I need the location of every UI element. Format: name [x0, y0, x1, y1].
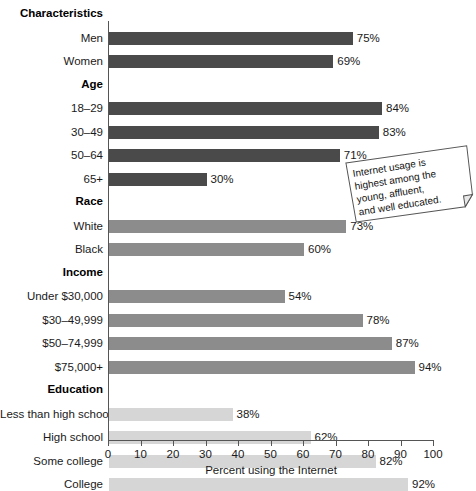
- x-axis-tick: [238, 441, 239, 446]
- bar-value-label: 38%: [237, 408, 260, 421]
- category-label: $50–74,999: [0, 336, 103, 350]
- category-label: 30–49: [0, 125, 103, 139]
- bar-value-label: 30%: [211, 173, 234, 186]
- bar: [109, 337, 392, 350]
- bar-value-label: 54%: [289, 290, 312, 303]
- bar-value-label: 78%: [367, 314, 390, 327]
- category-label: Women: [0, 54, 103, 68]
- category-label: College: [0, 477, 103, 491]
- category-label: Under $30,000: [0, 289, 103, 303]
- category-label: $75,000+: [0, 360, 103, 374]
- bar-value-label: 60%: [308, 243, 331, 256]
- bar-value-label: 83%: [383, 126, 406, 139]
- category-label: $30–49,999: [0, 313, 103, 327]
- bar: [109, 173, 207, 186]
- bar-value-label: 94%: [419, 361, 442, 374]
- category-label: High school: [0, 430, 103, 444]
- category-label: 50–64: [0, 148, 103, 162]
- category-label: Men: [0, 31, 103, 45]
- bar-value-label: 87%: [396, 337, 419, 350]
- bar: [109, 314, 363, 327]
- category-label: Less than high school: [0, 407, 103, 421]
- category-label: White: [0, 219, 103, 233]
- x-axis-tick: [336, 441, 337, 446]
- x-axis-tick: [206, 441, 207, 446]
- x-axis-tick: [433, 441, 434, 446]
- bar: [109, 126, 379, 139]
- bar: [109, 149, 340, 162]
- x-axis-tick: [108, 441, 109, 446]
- bar: [109, 478, 408, 491]
- x-axis-tick-label: 100: [413, 447, 453, 461]
- x-axis-tick: [141, 441, 142, 446]
- category-label: 18–29: [0, 101, 103, 115]
- bar-value-label: 69%: [337, 55, 360, 68]
- group-header-race: Race: [0, 194, 103, 208]
- bar-value-label: 84%: [386, 102, 409, 115]
- bar: [109, 290, 285, 303]
- bar: [109, 431, 311, 444]
- x-axis-tick: [271, 441, 272, 446]
- category-label: Black: [0, 242, 103, 256]
- x-axis-tick: [401, 441, 402, 446]
- x-axis-tick: [173, 441, 174, 446]
- bar-value-label: 92%: [412, 478, 435, 491]
- category-label: 65+: [0, 172, 103, 186]
- x-axis-tick: [303, 441, 304, 446]
- bar: [109, 102, 382, 115]
- bar: [109, 361, 415, 374]
- group-header-income: Income: [0, 265, 103, 279]
- group-header-age: Age: [0, 77, 103, 91]
- bar: [109, 55, 333, 68]
- x-axis-title: Percent using the Internet: [108, 464, 434, 476]
- chart-title: Characteristics: [0, 6, 103, 20]
- bar: [109, 220, 346, 233]
- bar: [109, 408, 233, 421]
- group-header-education: Education: [0, 382, 103, 396]
- bar: [109, 243, 304, 256]
- bar-value-label: 75%: [357, 32, 380, 45]
- bar: [109, 32, 353, 45]
- y-axis-line: [108, 21, 109, 440]
- x-axis-tick: [368, 441, 369, 446]
- bar-value-label: 62%: [315, 431, 338, 444]
